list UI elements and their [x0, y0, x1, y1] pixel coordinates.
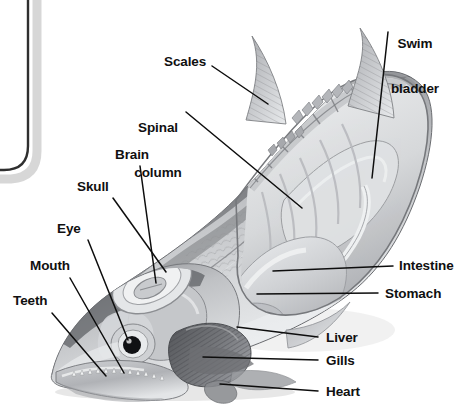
- label-liver: Liver: [326, 330, 358, 345]
- label-heart: Heart: [326, 384, 360, 399]
- label-mouth: Mouth: [30, 258, 70, 273]
- label-swim-bladder: Swim bladder: [379, 6, 451, 126]
- label-swim-bladder-line1: Swim: [379, 36, 451, 51]
- label-swim-bladder-line2: bladder: [379, 81, 451, 96]
- rounded-panel-edge: [0, 0, 37, 179]
- label-skull: Skull: [77, 179, 109, 194]
- label-gills: Gills: [326, 353, 355, 368]
- label-intestine: Intestine: [399, 258, 454, 273]
- fish-anatomy-figure: Swim bladder Scales Spinal column Brain …: [0, 0, 472, 413]
- label-eye: Eye: [57, 221, 81, 236]
- label-spinal-line2: column: [124, 165, 192, 180]
- leader-stomach: [257, 293, 378, 294]
- label-stomach: Stomach: [385, 286, 441, 301]
- label-scales: Scales: [164, 54, 206, 69]
- fish-body: [30, 28, 432, 403]
- label-brain: Brain: [115, 147, 149, 162]
- label-teeth: Teeth: [13, 293, 48, 308]
- label-spinal-line1: Spinal: [124, 120, 192, 135]
